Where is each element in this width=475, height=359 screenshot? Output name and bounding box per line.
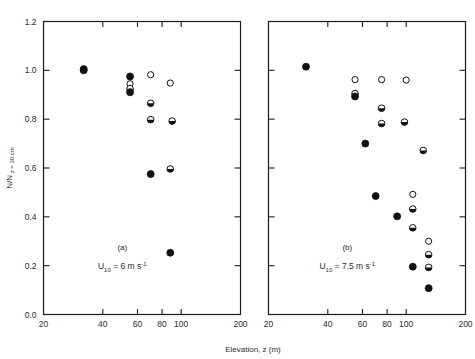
data-point-half <box>409 225 416 232</box>
data-point-filled <box>409 263 416 270</box>
data-point-half <box>147 116 154 123</box>
y-axis-title: N/N z = 30 cm <box>5 147 15 189</box>
x-tick-label: 200 <box>233 319 247 329</box>
data-point-filled <box>362 140 369 147</box>
y-tick-label: 0.8 <box>25 114 37 124</box>
x-tick-label: 80 <box>157 319 167 329</box>
data-point-half <box>169 118 176 125</box>
x-tick-label: 20 <box>264 319 274 329</box>
panel-annotation: U10 = 6 m s-1 <box>98 261 147 272</box>
data-point-open <box>410 191 416 197</box>
data-point-filled <box>80 67 87 74</box>
x-tick-label: 80 <box>382 319 392 329</box>
x-tick-label: 100 <box>399 319 413 329</box>
plot-frame <box>44 22 241 315</box>
data-point-open <box>403 77 409 83</box>
x-tick-label: 40 <box>98 319 108 329</box>
x-axis-title: Elevation, z (m) <box>225 345 281 354</box>
data-point-open <box>167 80 173 86</box>
panel-b: 20406080100200(b)U10 = 7.5 m s-1 <box>264 22 473 329</box>
data-point-open <box>378 77 384 83</box>
data-point-half <box>147 100 154 107</box>
x-tick-label: 60 <box>358 319 368 329</box>
data-point-filled <box>352 93 359 100</box>
x-tick-label: 60 <box>133 319 143 329</box>
y-tick-label: 1.2 <box>25 17 37 27</box>
y-tick-label: 1.0 <box>25 65 37 75</box>
y-tick-label: 0.6 <box>25 163 37 173</box>
y-tick-label: 0.4 <box>25 212 37 222</box>
data-point-half <box>425 264 432 271</box>
data-point-filled <box>302 63 309 70</box>
data-point-half <box>378 120 385 127</box>
x-tick-label: 20 <box>39 319 49 329</box>
data-point-filled <box>425 285 432 292</box>
data-point-open <box>148 72 154 78</box>
data-point-filled <box>372 193 379 200</box>
data-point-filled <box>127 73 134 80</box>
x-tick-label: 100 <box>174 319 188 329</box>
scatter-plot-figure: 204060801002000.00.20.40.60.81.01.2(a)U1… <box>0 0 475 359</box>
x-tick-label: 200 <box>458 319 472 329</box>
data-point-filled <box>167 249 174 256</box>
data-point-half <box>425 251 432 258</box>
x-tick-label: 40 <box>323 319 333 329</box>
figure-container: 204060801002000.00.20.40.60.81.01.2(a)U1… <box>0 0 475 359</box>
data-point-filled <box>147 171 154 178</box>
data-point-open <box>426 238 432 244</box>
data-points <box>80 66 175 257</box>
data-point-filled <box>127 89 134 96</box>
svg-text:N/N z = 30 cm: N/N z = 30 cm <box>5 147 15 189</box>
data-point-half <box>401 119 408 126</box>
data-points <box>302 63 432 291</box>
data-point-filled <box>394 213 401 220</box>
y-tick-label: 0.0 <box>25 310 37 320</box>
data-point-half <box>420 147 427 154</box>
data-point-open <box>352 77 358 83</box>
panel-a: 204060801002000.00.20.40.60.81.01.2(a)U1… <box>25 17 248 329</box>
panel-id-label: (a) <box>117 243 127 252</box>
y-tick-label: 0.2 <box>25 261 37 271</box>
data-point-half <box>409 206 416 213</box>
panel-annotation: U10 = 7.5 m s-1 <box>319 261 375 272</box>
data-point-half <box>167 166 174 173</box>
panel-id-label: (b) <box>342 243 352 252</box>
data-point-half <box>378 105 385 112</box>
